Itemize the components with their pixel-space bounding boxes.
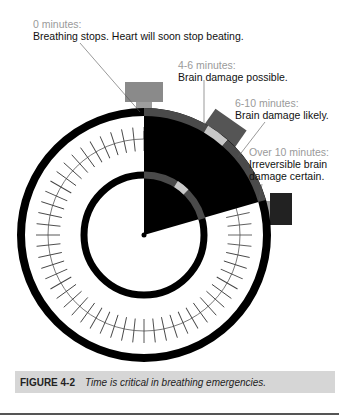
label-4-6-minutes: 4-6 minutes: Brain damage possible. — [178, 59, 288, 83]
label-0-minutes: 0 minutes: Breathing stops. Heart will s… — [33, 18, 244, 42]
label-6-10-minutes: 6-10 minutes: Brain damage likely. — [235, 97, 329, 121]
figure-number: FIGURE 4-2 — [20, 377, 75, 388]
label-over-10-minutes: Over 10 minutes: Irreversible brain dama… — [249, 146, 329, 182]
dial-center-pin — [142, 233, 147, 238]
bottom-rule — [0, 413, 339, 415]
figure-caption: FIGURE 4-2 Time is critical in breathing… — [15, 371, 335, 393]
stopwatch-diagram — [0, 0, 339, 416]
stopwatch-crown-button — [125, 82, 163, 102]
figure-caption-text: Time is critical in breathing emergencie… — [85, 377, 266, 388]
